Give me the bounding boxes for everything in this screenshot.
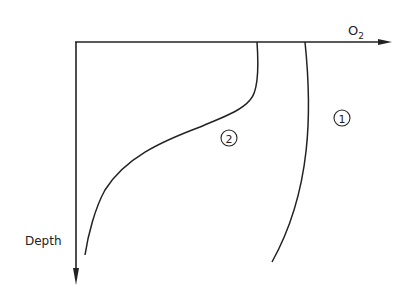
svg-text:2: 2	[226, 133, 233, 146]
curve-1	[272, 42, 309, 262]
x-axis: O2	[75, 23, 392, 45]
y-axis: Depth	[25, 42, 79, 285]
x-axis-label: O2	[348, 23, 364, 41]
curve-2-label: 2	[221, 130, 237, 146]
y-axis-label: Depth	[25, 234, 62, 248]
x-axis-arrowhead-icon	[378, 39, 392, 45]
curve-1-label: 1	[334, 110, 350, 126]
svg-text:1: 1	[339, 113, 346, 126]
oxygen-depth-diagram: O2 Depth 1 2	[0, 0, 412, 299]
y-axis-arrowhead-icon	[73, 268, 79, 285]
curve-2	[85, 42, 258, 255]
